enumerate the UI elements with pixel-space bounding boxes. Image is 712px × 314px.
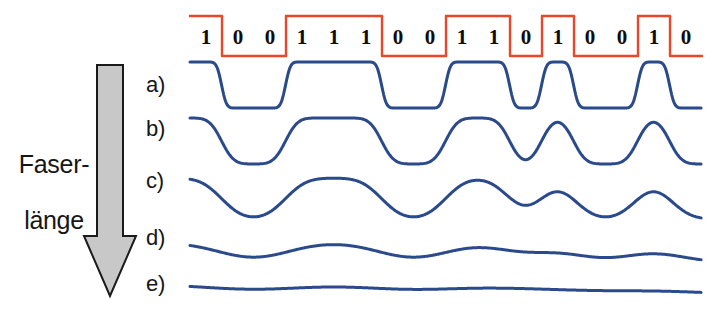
trace-label-d: d)	[146, 227, 165, 249]
bit-digit: 0	[606, 27, 638, 48]
bit-digit: 1	[478, 27, 510, 48]
bit-digit: 0	[254, 27, 286, 48]
bit-digit: 1	[638, 27, 670, 48]
trace-label-b: b)	[146, 118, 165, 140]
bit-digit: 0	[510, 27, 542, 48]
fiber-length-axis-label: Faser- länge	[8, 122, 100, 234]
bit-digit: 1	[350, 27, 382, 48]
bit-digit: 0	[382, 27, 414, 48]
bit-digit: 1	[286, 27, 318, 48]
bit-digit: 0	[574, 27, 606, 48]
trace-label-a: a)	[146, 74, 165, 96]
bit-digit: 0	[670, 27, 702, 48]
bit-digit: 0	[414, 27, 446, 48]
waveform-traces	[190, 16, 702, 292]
waveform-trace-e	[190, 286, 701, 292]
bit-digit: 1	[318, 27, 350, 48]
trace-label-c: c)	[146, 170, 164, 192]
axis-label-line-1: Faser-	[19, 150, 89, 178]
trace-label-e: e)	[146, 273, 165, 295]
dispersion-figure: Faser- länge 1001110011010010 a)b)c)d)e)	[0, 0, 712, 314]
waveform-trace-b	[190, 118, 701, 164]
waveform-trace-c	[190, 178, 701, 218]
axis-label-line-2: länge	[24, 206, 84, 234]
bit-digit: 0	[222, 27, 254, 48]
waveform-trace-d	[190, 245, 701, 260]
bit-digit: 1	[542, 27, 574, 48]
bit-digit: 1	[190, 27, 222, 48]
waveform-trace-a	[190, 62, 701, 108]
bit-digit: 1	[446, 27, 478, 48]
